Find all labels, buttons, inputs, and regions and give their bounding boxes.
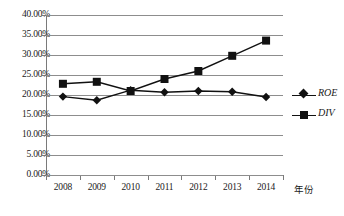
square-marker-icon (93, 78, 101, 86)
diamond-marker-icon (59, 92, 67, 100)
chart-container: 0.00%5.00%10.00%15.00%20.00%25.00%30.00%… (0, 0, 344, 216)
y-axis-tick-label: 40.00% (0, 9, 50, 19)
y-axis-tick-label: 30.00% (0, 49, 50, 59)
square-marker-icon (262, 37, 270, 45)
legend-label-div: DIV (318, 107, 335, 118)
diamond-marker-icon (93, 96, 101, 104)
square-marker-icon (228, 52, 236, 60)
x-axis-tick-mark (283, 175, 284, 180)
diamond-marker-icon (160, 88, 168, 96)
y-axis-tick-label: 15.00% (0, 109, 50, 119)
legend-label-roe: ROE (318, 87, 337, 98)
x-axis-title: 年份 (294, 182, 314, 196)
square-marker-icon (59, 80, 67, 88)
y-axis-tick-label: 25.00% (0, 69, 50, 79)
legend: ROE DIV (292, 86, 344, 126)
y-axis-tick-label: 20.00% (0, 89, 50, 99)
diamond-marker-icon (299, 89, 309, 99)
diamond-marker-icon (228, 88, 236, 96)
diamond-marker-icon (194, 87, 202, 95)
y-axis-tick-label: 35.00% (0, 29, 50, 39)
legend-item-roe[interactable]: ROE (292, 86, 344, 106)
legend-item-div[interactable]: DIV (292, 106, 344, 126)
square-marker-icon (300, 111, 308, 119)
square-marker-icon (161, 75, 169, 83)
plot-area (46, 15, 283, 175)
y-axis-tick-label: 0.00% (0, 169, 50, 179)
y-axis-tick-label: 10.00% (0, 129, 50, 139)
series-layer (46, 15, 283, 175)
x-axis-tick-label: 2014 (246, 182, 286, 192)
square-marker-icon (127, 87, 135, 95)
square-marker-icon (194, 67, 202, 75)
y-axis-tick-label: 5.00% (0, 149, 50, 159)
diamond-marker-icon (262, 93, 270, 101)
gridline (46, 175, 283, 176)
